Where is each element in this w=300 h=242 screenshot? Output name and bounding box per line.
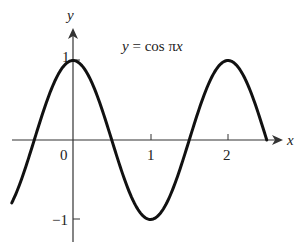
- x-tick-label-2: 2: [223, 147, 231, 163]
- equation-label: y = cos πx: [120, 38, 183, 54]
- x-tick-label-0: 0: [60, 147, 68, 163]
- x-axis: x: [12, 132, 294, 148]
- x-axis-label: x: [286, 132, 294, 148]
- y-tick-label-neg1: −1: [52, 212, 68, 228]
- y-axis: y: [65, 7, 78, 242]
- cosine-chart: x y 0 1 2 1 −1 y = cos πx: [0, 0, 300, 242]
- y-axis-label: y: [65, 7, 74, 23]
- x-ticks: 0 1 2: [60, 134, 231, 163]
- x-tick-label-1: 1: [147, 147, 155, 163]
- equation-eq: = cos π: [129, 38, 177, 54]
- equation-var: x: [175, 38, 183, 54]
- equation-lhs: y: [120, 38, 129, 54]
